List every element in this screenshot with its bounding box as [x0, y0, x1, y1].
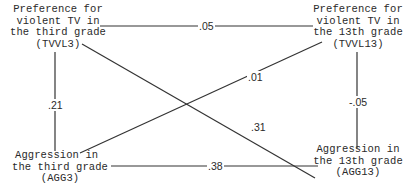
node-agg3-line-1: Aggression in	[8, 150, 112, 162]
coef-bottom-agg3-agg13: .38	[207, 160, 224, 172]
coef-diag-agg3-tvvl13: .01	[247, 71, 264, 83]
node-tvvl13-line-3: the 13th grade	[308, 27, 408, 39]
node-agg13-line-1: Aggression in	[308, 144, 408, 156]
node-agg13: Aggression in the 13th grade (AGG13)	[308, 144, 408, 179]
node-agg13-line-3: (AGG13)	[308, 167, 408, 179]
coef-left-tvvl3-agg3: .21	[47, 99, 64, 111]
node-tvvl3-line-3: the third grade	[8, 27, 108, 39]
node-tvvl13-line-4: (TVVL13)	[308, 39, 408, 51]
coef-top-tvvl3-tvvl13: .05	[198, 20, 215, 32]
node-tvvl13-line-1: Preference for	[308, 4, 408, 16]
node-tvvl3: Preference for violent TV in the third g…	[8, 4, 108, 50]
node-tvvl3-line-1: Preference for	[8, 4, 108, 16]
node-tvvl13: Preference for violent TV in the 13th gr…	[308, 4, 408, 50]
node-tvvl3-line-4: (TVVL3)	[8, 39, 108, 51]
node-agg3-line-3: (AGG3)	[8, 173, 112, 185]
coef-diag-tvvl3-agg13: .31	[250, 121, 267, 133]
edge-agg3-tvvl13	[80, 42, 322, 153]
coef-right-tvvl13-agg13: -.05	[348, 96, 368, 108]
node-agg3: Aggression in the third grade (AGG3)	[8, 150, 112, 185]
edge-tvvl3-agg13	[82, 44, 315, 178]
